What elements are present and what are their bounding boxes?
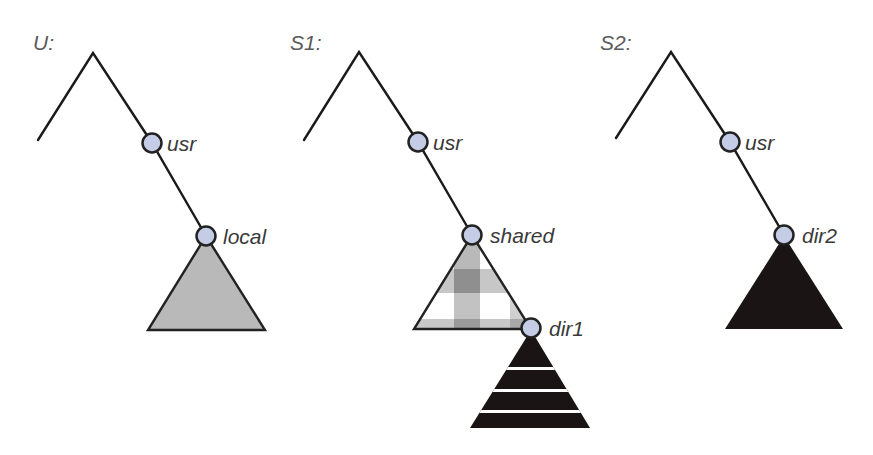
tree-s2: S2: usr dir2	[600, 31, 843, 329]
node-label-usr-u: usr	[167, 132, 197, 155]
tree-title-u: U:	[33, 31, 54, 54]
node-label-usr-s2: usr	[745, 131, 775, 154]
subtree-triangle-dir1	[460, 330, 600, 428]
tree-title-s1: S1:	[290, 31, 322, 54]
node-label-local: local	[223, 225, 268, 248]
node-local[interactable]	[197, 227, 216, 246]
node-label-shared: shared	[490, 224, 556, 247]
node-dir2[interactable]	[775, 226, 794, 245]
subtree-triangle-local	[148, 236, 265, 330]
node-usr-s1[interactable]	[409, 133, 428, 152]
node-label-dir2: dir2	[802, 224, 837, 247]
tree-u: U: usr local	[33, 31, 268, 330]
node-label-dir1: dir1	[549, 317, 584, 340]
subtree-triangle-dir2	[725, 236, 843, 329]
node-usr-s2[interactable]	[721, 133, 740, 152]
tree-title-s2: S2:	[600, 31, 632, 54]
node-dir1[interactable]	[522, 319, 541, 338]
node-shared[interactable]	[463, 226, 482, 245]
tree-s1: S1: usr shared dir1	[290, 31, 600, 428]
node-usr-u[interactable]	[143, 134, 162, 153]
namespace-diagram: U: usr local S1: usr shared dir1 S2:	[0, 0, 873, 455]
subtree-triangle-shared	[414, 235, 531, 329]
node-label-usr-s1: usr	[433, 131, 463, 154]
